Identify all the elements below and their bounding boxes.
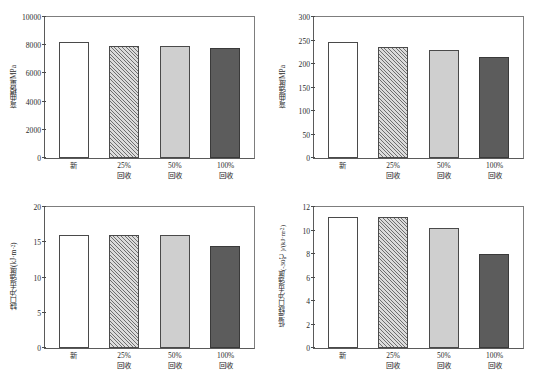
x-axis-labels: 新25%回收50%回收100%回收: [313, 351, 524, 371]
y-axis-tick-label: 2000: [26, 125, 41, 134]
x-axis-label-1: 新: [58, 351, 88, 371]
bar-series: [45, 17, 254, 158]
x-axis-label-1: 新: [58, 161, 88, 181]
y-axis-tick-label: 200: [299, 60, 310, 69]
bar-series: [314, 207, 523, 348]
bar-2: [109, 46, 139, 158]
y-axis-tick-label: 12: [302, 203, 310, 212]
bar-1: [328, 42, 358, 158]
y-axis-tick-label: 0: [37, 154, 41, 163]
bar-4: [210, 48, 240, 158]
x-axis-label-2: 25%回收: [378, 351, 408, 371]
y-axis-title-main: 低温缺口冲击强度(-30℃)/(kJ·m: [280, 232, 287, 328]
x-axis-label-3: 50%回收: [429, 351, 459, 371]
y-axis-title: 低温缺口冲击强度(-30℃)/(kJ·m-2): [275, 200, 291, 352]
y-axis-tick-label: 20: [33, 203, 41, 212]
y-axis-title-tail: ): [10, 242, 17, 244]
y-axis-tick-label: 8: [306, 250, 310, 259]
bar-4: [479, 57, 509, 158]
chart-panel-flexural-strength: 弯曲强度/MPa 050100150200250300 新25%回收50%回收1…: [269, 0, 538, 190]
chart-panel-notched-impact-strength: 缺口冲击强度/(kJ·m-2) 05101520 新25%回收50%回收100%…: [0, 190, 269, 381]
x-axis-labels: 新25%回收50%回收100%回收: [44, 351, 255, 371]
bar-4: [210, 246, 240, 348]
y-axis-tick-label: 15: [33, 238, 41, 247]
y-axis-tick-label: 6: [306, 273, 310, 282]
y-axis-tick-label: 4: [306, 297, 310, 306]
y-axis-tick-label: 0: [306, 344, 310, 353]
x-axis-label-2: 25%回收: [109, 351, 139, 371]
plot-area: 05101520: [44, 206, 255, 349]
bar-series: [45, 207, 254, 348]
y-axis-tick-label: 250: [299, 36, 310, 45]
y-axis-tick-label: 5: [37, 308, 41, 317]
x-axis-label-3: 50%回收: [160, 351, 190, 371]
x-axis-labels: 新25%回收50%回收100%回收: [313, 161, 524, 181]
y-axis-title-superscript: -2: [280, 227, 285, 232]
y-axis-tick-label: 50: [302, 130, 310, 139]
y-axis-tick-label: 0: [37, 344, 41, 353]
y-axis-tick-label: 0: [306, 154, 310, 163]
plot-area: 0200040006000800010000: [44, 16, 255, 159]
plot-area: 050100150200250300: [313, 16, 524, 159]
bar-1: [328, 217, 358, 348]
bar-1: [59, 42, 89, 158]
y-axis-tick-label: 2: [306, 320, 310, 329]
x-axis-label-4: 100%回收: [480, 351, 510, 371]
y-axis-title: 缺口冲击强度/(kJ·m-2): [6, 204, 22, 349]
x-axis-label-4: 100%回收: [480, 161, 510, 181]
bar-3: [160, 235, 190, 349]
bar-series: [314, 17, 523, 158]
y-axis-tick-label: 150: [299, 83, 310, 92]
x-axis-label-4: 100%回收: [211, 161, 241, 181]
y-axis-tick-label: 10000: [22, 13, 41, 22]
bar-3: [429, 228, 459, 348]
y-axis-tick-label: 100: [299, 107, 310, 116]
chart-panel-flexural-modulus: 弯曲模量/MPa 0200040006000800010000 新25%回收50…: [0, 0, 269, 190]
y-axis-title-superscript: -2: [11, 245, 16, 250]
y-axis-tick-label: 6000: [26, 69, 41, 78]
bar-3: [429, 50, 459, 158]
y-axis-tick-label: 10: [302, 226, 310, 235]
x-axis-label-2: 25%回收: [378, 161, 408, 181]
plot-area: 024681012: [313, 206, 524, 349]
bar-2: [109, 235, 139, 349]
figure-grid: 弯曲模量/MPa 0200040006000800010000 新25%回收50…: [0, 0, 538, 381]
y-axis-tick-label: 4000: [26, 97, 41, 106]
y-axis-title-main: 缺口冲击强度/(kJ·m: [10, 249, 17, 310]
bar-4: [479, 254, 509, 348]
x-axis-label-1: 新: [327, 161, 357, 181]
bar-1: [59, 235, 89, 349]
x-axis-label-3: 50%回收: [160, 161, 190, 181]
bar-2: [378, 217, 408, 348]
x-axis-label-4: 100%回收: [211, 351, 241, 371]
x-axis-label-2: 25%回收: [109, 161, 139, 181]
y-axis-tick-label: 8000: [26, 41, 41, 50]
y-axis-tick-label: 10: [33, 273, 41, 282]
x-axis-label-3: 50%回收: [429, 161, 459, 181]
y-axis-title-tail: ): [280, 225, 287, 227]
bar-2: [378, 47, 408, 158]
x-axis-label-1: 新: [327, 351, 357, 371]
x-axis-labels: 新25%回收50%回收100%回收: [44, 161, 255, 181]
y-axis-tick-label: 300: [299, 13, 310, 22]
y-axis-title: 弯曲强度/MPa: [275, 14, 291, 159]
y-axis-title: 弯曲模量/MPa: [6, 14, 22, 159]
chart-panel-low-temperature-notched-impact-strength: 低温缺口冲击强度(-30℃)/(kJ·m-2) 024681012 新25%回收…: [269, 190, 538, 381]
bar-3: [160, 46, 190, 158]
